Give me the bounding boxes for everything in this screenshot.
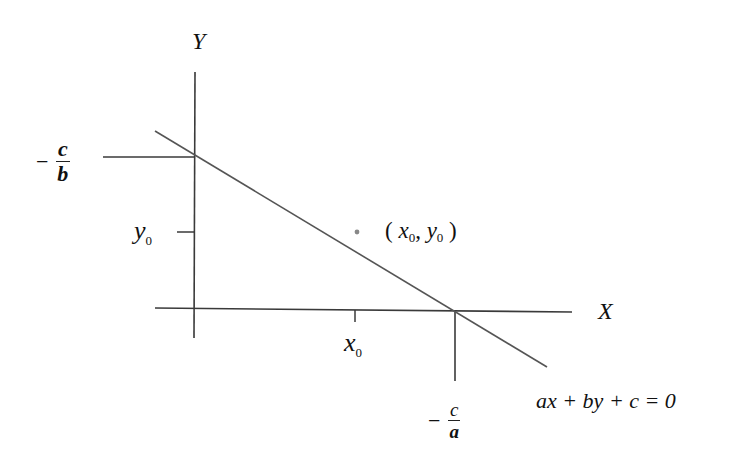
numerator: c xyxy=(56,138,70,162)
denominator: a xyxy=(449,421,459,441)
y-axis-label-text: Y xyxy=(192,28,205,54)
minus-sign: − xyxy=(428,408,440,433)
x0-var: x xyxy=(344,328,356,357)
numerator: c xyxy=(448,400,460,421)
y-intercept-label: − c b xyxy=(36,138,70,185)
point-x-var: x xyxy=(398,218,408,243)
y-axis-label: Y xyxy=(192,28,205,55)
x-axis-label-text: X xyxy=(598,298,613,324)
fraction-c-over-b: c b xyxy=(56,138,70,185)
fraction-c-over-a: c a xyxy=(448,400,460,441)
point-x-subscript: 0 xyxy=(409,230,416,245)
x-axis xyxy=(155,308,572,312)
x-axis-label: X xyxy=(598,298,613,325)
x0-subscript: 0 xyxy=(356,345,363,360)
point-x0-y0 xyxy=(355,230,360,235)
line-equation-label: ax + by + c = 0 xyxy=(536,388,676,414)
x-intercept-label: − c a xyxy=(428,400,460,441)
close-paren: ) xyxy=(449,218,457,243)
comma: , xyxy=(415,218,421,243)
point-y-subscript: 0 xyxy=(437,230,444,245)
equation-text: ax + by + c = 0 xyxy=(536,388,676,413)
minus-sign: − xyxy=(36,149,48,174)
x0-tick-label: x0 xyxy=(344,328,362,358)
y0-var: y xyxy=(134,216,146,245)
open-paren: ( xyxy=(385,218,393,243)
denominator: b xyxy=(57,162,68,185)
point-y-var: y xyxy=(427,218,437,243)
y0-subscript: 0 xyxy=(146,233,153,248)
y0-tick-label: y0 xyxy=(134,216,152,246)
y-axis xyxy=(194,72,195,338)
point-label: ( x0, y0 ) xyxy=(385,218,457,244)
